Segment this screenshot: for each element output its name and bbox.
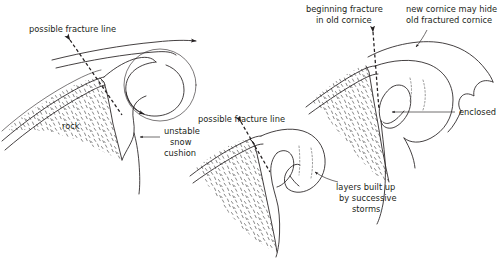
middle-layer-dots-2 [311,148,313,178]
right-new-cornice-leader [416,30,427,47]
middle-layer-dots-1 [299,146,300,175]
left-cushion-label-line3: cushion [164,148,196,158]
left-rock-mass [8,78,122,160]
left-eddy-circle [124,49,196,121]
left-cushion-lower [134,133,140,194]
left-rock-label: rock [62,121,80,131]
right-layer-dots-2 [423,80,425,110]
right-newcornice-label-line1: new cornice may hide [406,4,497,14]
middle-scallop-b [290,176,299,186]
right-new-cornice-arc [368,42,493,82]
figure-canvas: possible fracture line rock unstable sno… [0,0,504,261]
right-enclosed-core [381,85,411,128]
left-wind-streamline [52,40,196,60]
left-wind-streamline-2 [56,52,176,68]
right-core-scallop [383,111,404,124]
middle-rock-mass [196,139,277,252]
middle-layers-leader [315,172,338,182]
right-beginning-fracture-line [373,32,379,110]
middle-layers-label-line2: by successive [339,193,397,203]
middle-layers-label-line3: storms [352,204,380,214]
middle-fracture-label: possible fracture line [198,114,285,124]
right-enclosed-label: enclosed [459,107,496,117]
right-beginning-label-line2: in old cornice [316,15,372,25]
left-snow-cushion-outline [122,96,146,160]
right-beginning-label-line1: beginning fracture [306,4,383,14]
left-cornice-crest [104,57,156,77]
left-cushion-label-line2: snow [170,137,192,147]
cornice-formation-diagram: possible fracture line rock unstable sno… [0,0,504,261]
middle-layers-label-line1: layers built up [336,182,395,192]
left-cushion-label-line1: unstable [164,126,200,136]
right-old-cornice-lower [404,138,415,168]
right-newcornice-label-line2: old fractured cornice [406,15,492,25]
left-fracture-label: possible fracture line [29,24,116,34]
right-enclosed-core-left [379,87,392,121]
middle-cornice-inner [277,151,294,187]
panel-left: possible fracture line rock unstable sno… [2,24,200,194]
panel-right: beginning fracture in old cornice new co… [306,4,497,224]
right-old-cornice-outline [375,60,453,142]
middle-cornice-outer [261,129,325,192]
